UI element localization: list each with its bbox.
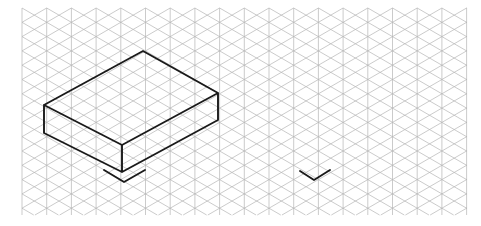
isometric-drawing-svg	[0, 0, 481, 226]
isometric-drawing-canvas[interactable]: Isometric grid sketch of a rectangular b…	[0, 0, 481, 226]
